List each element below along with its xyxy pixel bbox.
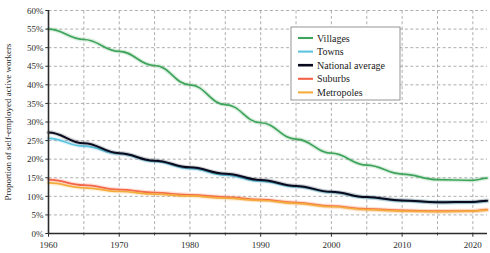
y-tick-label: 20% bbox=[27, 154, 44, 164]
line-chart: 0%5%10%15%20%25%30%35%40%45%50%55%60%196… bbox=[0, 0, 490, 253]
x-tick-label: 1970 bbox=[110, 240, 129, 250]
y-tick-label: 40% bbox=[27, 80, 44, 90]
series-halo-villages bbox=[49, 29, 488, 180]
y-tick-label: 45% bbox=[27, 61, 44, 71]
chart-canvas: 0%5%10%15%20%25%30%35%40%45%50%55%60%196… bbox=[0, 0, 490, 253]
legend-label-villages: Villages bbox=[317, 33, 350, 44]
y-tick-label: 10% bbox=[27, 192, 44, 202]
legend-label-metropoles: Metropoles bbox=[317, 87, 363, 98]
y-tick-label: 0% bbox=[32, 229, 45, 239]
y-tick-label: 5% bbox=[32, 210, 45, 220]
y-tick-label: 15% bbox=[27, 173, 44, 183]
y-tick-label: 30% bbox=[27, 117, 44, 127]
y-tick-label: 55% bbox=[27, 24, 44, 34]
series-line-suburbs bbox=[49, 180, 488, 212]
y-tick-label: 50% bbox=[27, 43, 44, 53]
x-tick-label: 1960 bbox=[40, 240, 59, 250]
y-tick-label: 60% bbox=[27, 6, 44, 16]
x-tick-label: 1990 bbox=[252, 240, 271, 250]
x-tick-label: 2020 bbox=[464, 240, 483, 250]
legend-label-national-average: National average bbox=[317, 60, 386, 71]
y-axis-title: Proportion of self-employed active worke… bbox=[3, 43, 13, 200]
series-halo-suburbs bbox=[49, 180, 488, 212]
y-tick-label: 25% bbox=[27, 136, 44, 146]
x-tick-label: 2000 bbox=[322, 240, 341, 250]
x-tick-label: 1980 bbox=[181, 240, 200, 250]
legend-label-towns: Towns bbox=[317, 46, 344, 57]
y-tick-label: 35% bbox=[27, 99, 44, 109]
x-tick-label: 2010 bbox=[393, 240, 412, 250]
legend-label-suburbs: Suburbs bbox=[317, 73, 350, 84]
